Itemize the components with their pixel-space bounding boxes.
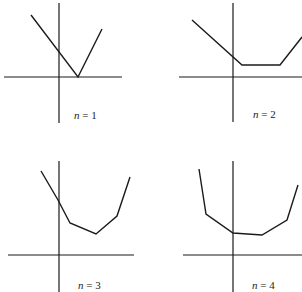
panel-label: n = 3 (78, 279, 101, 291)
panel-n3: n = 3 (8, 161, 134, 292)
graph-line (41, 171, 130, 234)
graph-line (31, 15, 102, 77)
panel-n4: n = 4 (183, 161, 302, 292)
graph-line (192, 20, 302, 65)
graph-line (199, 169, 298, 235)
panel-n1: n = 1 (4, 3, 122, 123)
panel-label: n = 4 (252, 279, 275, 291)
panel-label: n = 2 (253, 108, 276, 120)
panel-n2: n = 2 (179, 3, 302, 122)
piecewise-linear-diagram: n = 1 n = 2 n = 3 n = 4 (0, 0, 302, 292)
panel-label: n = 1 (74, 109, 97, 121)
